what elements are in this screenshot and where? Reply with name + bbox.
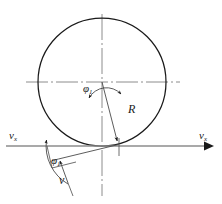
radius-label: R [128,103,135,115]
velocity-label: v [59,174,64,186]
angle-phi1-lower-label: φ1 [51,155,61,168]
angle-phi1-center-label: φ1 [83,83,93,96]
phi-subscript: 1 [57,160,60,167]
figure-container: φ1 R vx vx φ1 v [0,0,222,204]
velocity-axis-arrowhead [204,142,214,151]
velocity-tail-stroke [68,183,73,196]
phi-subscript: 1 [89,88,92,95]
v-subscript: x [14,135,17,142]
vx-left-label: vx [9,130,17,143]
vx-right-label: vx [199,130,207,143]
v-subscript: x [204,135,207,142]
rolling-wheel-diagram [0,0,222,204]
radius-line [102,82,117,141]
